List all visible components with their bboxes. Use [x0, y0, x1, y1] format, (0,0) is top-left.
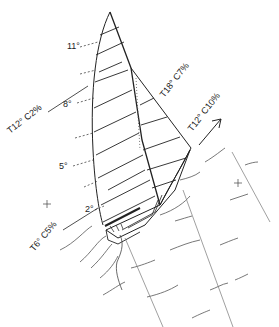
- wake-lines: [125, 152, 270, 327]
- waves: [60, 148, 258, 318]
- mainsail-luff: [92, 12, 110, 225]
- annotation-main-top: T12° C2%: [5, 102, 44, 135]
- diagram-svg: 11° 8° 5° 2° T12° C2% T18° C7% T12° C10%…: [0, 0, 279, 327]
- jib-sections: [140, 98, 186, 188]
- angle-label-5: 5°: [59, 161, 68, 171]
- angle-label-11: 11°: [67, 41, 80, 51]
- angle-label-8: 8°: [63, 99, 72, 109]
- crosshair-mark-left: [43, 200, 51, 208]
- annotation-main-foot: T6° C5%: [28, 219, 59, 253]
- jib-dotted-line: [136, 78, 140, 150]
- crosshair-mark-right: [234, 179, 242, 187]
- sailboat-diagram: 11° 8° 5° 2° T12° C2% T18° C7% T12° C10%…: [0, 0, 279, 327]
- angle-leaders: [73, 42, 104, 210]
- wind-arrow-icon: [199, 119, 221, 145]
- hull: [105, 150, 190, 244]
- annotation-jib-low: T12° C10%: [186, 91, 222, 134]
- annotation-jib-top: T18° C7%: [158, 61, 191, 100]
- mainsail-sections: [94, 27, 155, 222]
- angle-label-2: 2°: [85, 204, 94, 214]
- mainsail-leech: [110, 12, 160, 205]
